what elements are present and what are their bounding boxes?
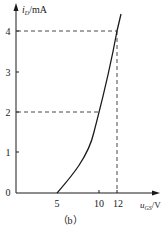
origin-label: 0: [6, 187, 11, 198]
y-tick-label-2: 2: [6, 107, 11, 118]
x-axis-label: uGS/V: [140, 200, 161, 211]
chart-canvas: iD/mA 4 3 2 1 0 5 10 12 uGS/V （b）: [0, 0, 168, 230]
y-tick-label-3: 3: [6, 67, 11, 78]
x-axis-arrow-icon: [152, 191, 160, 196]
y-axis-label: iD/mA: [22, 4, 48, 16]
transfer-curve: [57, 14, 121, 193]
y-tick-label-1: 1: [6, 147, 11, 158]
y-tick-label-4: 4: [6, 26, 11, 37]
x-tick-label-10: 10: [94, 198, 104, 209]
x-tick-label-12: 12: [113, 198, 123, 209]
figure-caption: （b）: [58, 215, 83, 226]
x-tick-label-5: 5: [55, 198, 60, 209]
y-axis-arrow-icon: [14, 3, 19, 11]
